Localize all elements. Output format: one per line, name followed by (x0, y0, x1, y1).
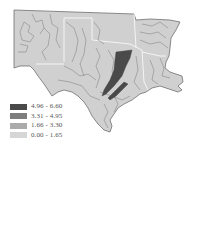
legend-label: 4.96 - 6.60 (31, 102, 62, 111)
legend-item: 4.96 - 6.60 (10, 102, 62, 111)
legend-label: 3.31 - 4.95 (31, 112, 62, 121)
legend-item: 3.31 - 4.95 (10, 112, 62, 121)
legend-swatch (10, 132, 27, 138)
legend-label: 0.00 - 1.65 (31, 131, 62, 140)
map-legend: 4.96 - 6.60 3.31 - 4.95 1.66 - 3.30 0.00… (10, 102, 62, 140)
legend-item: 0.00 - 1.65 (10, 131, 62, 140)
legend-swatch (10, 104, 27, 110)
legend-swatch (10, 123, 27, 129)
legend-swatch (10, 113, 27, 119)
legend-label: 1.66 - 3.30 (31, 121, 62, 130)
legend-item: 1.66 - 3.30 (10, 121, 62, 130)
